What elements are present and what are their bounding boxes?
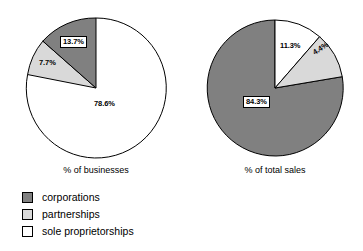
- legend-item-sole-proprietorships[interactable]: sole proprietorships: [22, 223, 222, 239]
- pie-chart-figure: 13.7% 7.7% 78.6% 11.3% 4.4% 84.3% % of b…: [0, 0, 363, 251]
- legend: corporations partnerships sole proprieto…: [22, 189, 222, 240]
- legend-label-corporations: corporations: [42, 191, 100, 203]
- legend-swatch-sole-proprietorships: [22, 226, 33, 237]
- label-businesses-corporations: 13.7%: [60, 36, 87, 48]
- legend-swatch-corporations: [22, 192, 33, 203]
- businesses-pie-group: [26, 18, 166, 158]
- caption-businesses: % of businesses: [36, 165, 156, 176]
- label-total-sales-sole-proprietorships: 11.3%: [280, 41, 300, 50]
- legend-label-partnerships: partnerships: [42, 208, 100, 220]
- caption-total-sales: % of total sales: [215, 165, 335, 176]
- legend-item-partnerships[interactable]: partnerships: [22, 206, 222, 222]
- label-total-sales-corporations: 84.3%: [243, 96, 270, 108]
- label-businesses-sole-proprietorships: 78.6%: [94, 99, 115, 108]
- legend-item-corporations[interactable]: corporations: [22, 189, 222, 205]
- label-businesses-partnerships: 7.7%: [39, 58, 56, 67]
- legend-label-sole-proprietorships: sole proprietorships: [42, 225, 134, 237]
- legend-swatch-partnerships: [22, 209, 33, 220]
